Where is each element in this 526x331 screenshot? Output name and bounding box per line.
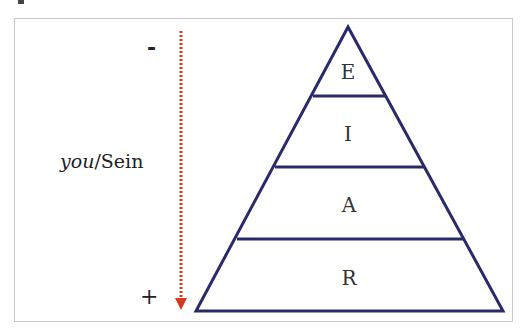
axis-label-italic: you <box>60 150 94 172</box>
layer-label-i: I <box>344 122 352 146</box>
layer-label-e: E <box>341 60 356 84</box>
layer-label-r: R <box>341 266 356 290</box>
axis-label: you/Sein <box>60 150 143 172</box>
arrow-down-icon <box>175 298 187 310</box>
axis-label-rest: /Sein <box>94 150 143 172</box>
layer-label-a: A <box>342 193 356 217</box>
scale-bottom-label: + <box>140 284 158 309</box>
scale-top-label: - <box>147 34 156 60</box>
